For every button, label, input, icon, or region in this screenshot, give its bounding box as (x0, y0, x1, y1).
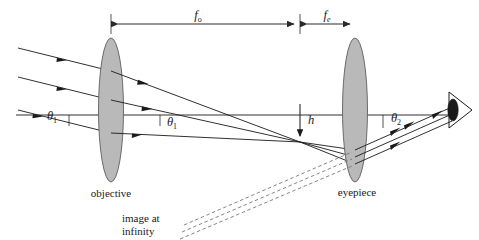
image-at-infinity-line2: infinity (122, 225, 155, 237)
image-at-infinity-annotation: image at infinity (122, 212, 160, 237)
diagram-background (0, 0, 479, 240)
diagram-canvas: fo fe θ1 objective (0, 0, 479, 240)
eyepiece-label: eyepiece (338, 186, 377, 198)
h-label: h (308, 113, 314, 127)
objective-lens (99, 38, 124, 182)
eye-pupil (448, 99, 458, 121)
image-at-infinity-line1: image at (122, 212, 160, 224)
telescope-ray-diagram: fo fe θ1 objective (0, 0, 479, 240)
objective-label: objective (91, 187, 131, 199)
